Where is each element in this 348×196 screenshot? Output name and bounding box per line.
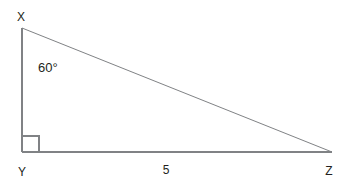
vertex-label-z: Z [325, 165, 332, 177]
vertex-label-x: X [17, 11, 25, 23]
diagram-canvas: X Y Z 60° 5 [0, 0, 348, 196]
vertex-label-y: Y [18, 166, 26, 178]
right-angle-square-icon [22, 136, 39, 152]
triangle-figure [0, 0, 348, 196]
segment-xz [22, 28, 332, 152]
angle-label-x: 60° [38, 61, 58, 74]
side-label-yz: 5 [163, 164, 170, 176]
